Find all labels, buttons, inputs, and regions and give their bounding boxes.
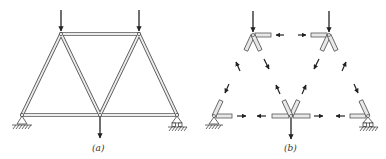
panel-a-truss <box>12 10 187 138</box>
pin-support-icon <box>12 116 32 129</box>
panel-b-label: (b) <box>284 143 297 153</box>
roller-support-icon <box>168 116 187 131</box>
joint-pins <box>20 32 178 116</box>
panel-b-fbd <box>205 11 378 139</box>
panel-a-label: (a) <box>92 143 104 153</box>
load-arrows <box>61 10 139 138</box>
fbd-load-arrows <box>253 11 329 139</box>
truss-diagram <box>0 0 386 159</box>
fbd-pin-support-icon <box>205 117 223 129</box>
fbd-roller-support-icon <box>359 117 378 131</box>
